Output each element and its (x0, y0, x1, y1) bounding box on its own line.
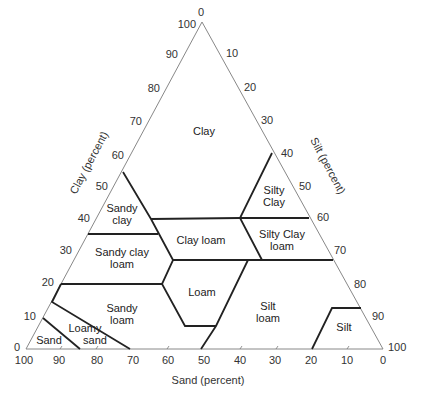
svg-text:90: 90 (166, 48, 178, 60)
region-silty-clay-loam-2: loam (270, 240, 294, 252)
soil-texture-triangle: 100 90 80 70 60 50 40 30 20 10 0 0 10 20… (0, 0, 424, 407)
svg-text:20: 20 (244, 81, 256, 93)
svg-text:100: 100 (388, 341, 406, 353)
region-silty-clay-loam-1: Silty Clay (259, 228, 305, 240)
region-loamy-sand-1: Loamy (68, 322, 102, 334)
region-sand: Sand (36, 334, 62, 346)
svg-text:90: 90 (53, 354, 65, 366)
svg-text:90: 90 (372, 310, 384, 322)
region-boundaries (43, 153, 361, 349)
svg-text:80: 80 (91, 354, 103, 366)
sand-axis-title: Sand (percent) (172, 374, 245, 386)
region-silt-loam-1: Silt (260, 300, 275, 312)
silt-axis-ticks: 0 10 20 30 40 50 60 70 80 90 100 (198, 6, 406, 353)
svg-text:60: 60 (112, 149, 124, 161)
svg-text:30: 30 (60, 244, 72, 256)
svg-text:70: 70 (127, 354, 139, 366)
svg-text:30: 30 (269, 354, 281, 366)
silt-axis-title: Silt (percent) (308, 135, 348, 196)
clay-axis-ticks: 100 90 80 70 60 50 40 30 20 10 0 (14, 18, 196, 353)
region-silty-clay-2: Clay (263, 196, 286, 208)
region-sandy-clay-loam-1: Sandy clay (95, 246, 149, 258)
sand-axis-ticks: 100 90 80 70 60 50 40 30 20 10 0 (15, 354, 386, 366)
svg-text:20: 20 (42, 276, 54, 288)
svg-text:100: 100 (178, 18, 196, 30)
svg-text:60: 60 (162, 354, 174, 366)
svg-text:80: 80 (354, 278, 366, 290)
region-sandy-clay-2: clay (112, 214, 132, 226)
svg-text:70: 70 (334, 244, 346, 256)
svg-text:10: 10 (341, 354, 353, 366)
svg-text:60: 60 (317, 211, 329, 223)
svg-text:0: 0 (380, 354, 386, 366)
svg-text:40: 40 (78, 212, 90, 224)
region-sandy-loam-2: loam (110, 314, 134, 326)
svg-text:20: 20 (305, 354, 317, 366)
svg-text:40: 40 (281, 147, 293, 159)
svg-text:0: 0 (14, 341, 20, 353)
region-sandy-clay-1: Sandy (106, 202, 138, 214)
svg-text:0: 0 (198, 6, 204, 18)
svg-text:10: 10 (226, 47, 238, 59)
region-loamy-sand-2: sand (83, 334, 107, 346)
svg-text:50: 50 (96, 180, 108, 192)
svg-text:40: 40 (234, 354, 246, 366)
region-sandy-clay-loam-2: loam (110, 258, 134, 270)
svg-text:10: 10 (24, 310, 36, 322)
region-clay: Clay (193, 125, 216, 137)
svg-text:50: 50 (198, 354, 210, 366)
region-silty-clay-1: Silty (264, 184, 285, 196)
svg-text:100: 100 (15, 354, 33, 366)
svg-text:30: 30 (261, 114, 273, 126)
svg-text:70: 70 (130, 115, 142, 127)
region-clay-loam: Clay loam (177, 234, 226, 246)
region-silt-loam-2: loam (256, 312, 280, 324)
region-loam: Loam (188, 286, 216, 298)
region-sandy-loam-1: Sandy (106, 302, 138, 314)
region-silt: Silt (336, 321, 351, 333)
svg-text:50: 50 (299, 180, 311, 192)
svg-text:80: 80 (148, 82, 160, 94)
